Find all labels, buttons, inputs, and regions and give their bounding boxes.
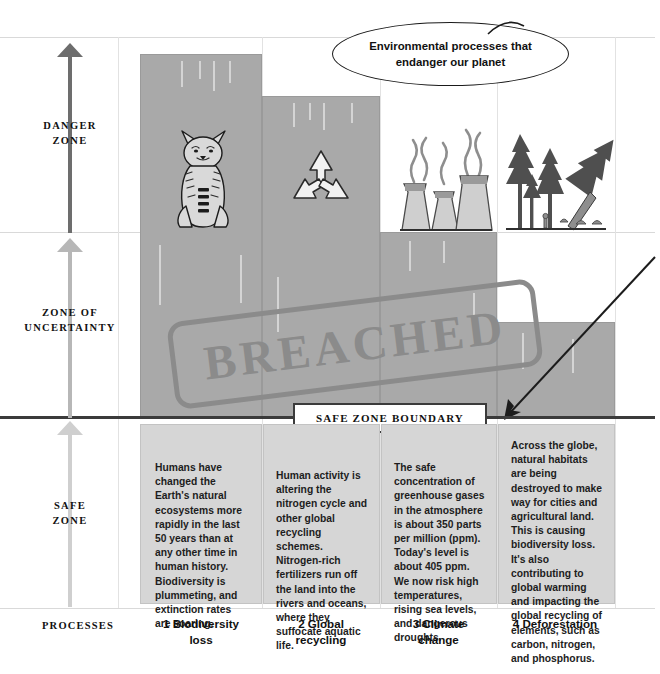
process-label-3-line2: change xyxy=(418,633,459,646)
process-label-1-line1: 1 Biodiversity xyxy=(163,617,239,630)
safe-zone-boundary-label: SAFE ZONE BOUNDARY xyxy=(316,412,464,424)
uncertainty-zone-label-line1: ZONE OF xyxy=(42,307,98,318)
callout-bubble: Environmental processes that endanger ou… xyxy=(332,22,569,86)
process-label-2: 2 Global recycling xyxy=(262,616,380,648)
process-label-4: 4 Deforestation xyxy=(490,616,620,632)
uncertainty-zone-label-line2: UNCERTAINTY xyxy=(24,322,115,333)
process-label-1-line2: loss xyxy=(189,633,212,646)
danger-zone-label: DANGER ZONE xyxy=(10,118,130,148)
callout-text: Environmental processes that endanger ou… xyxy=(369,38,532,70)
trend-arrow xyxy=(495,255,660,423)
tiger-icon xyxy=(168,128,238,233)
safe-zone-label: SAFE ZONE xyxy=(10,498,130,528)
process-label-1: 1 Biodiversity loss xyxy=(140,616,262,648)
safe-zone-label-line1: SAFE xyxy=(54,500,86,511)
cooling-towers-icon xyxy=(400,126,492,232)
card-deforestation: Across the globe, natural habitats are b… xyxy=(498,424,615,604)
uncertainty-zone-label: ZONE OF UNCERTAINTY xyxy=(2,305,138,335)
recycling-icon xyxy=(288,148,354,214)
process-label-2-line1: 2 Global xyxy=(298,617,344,630)
danger-zone-label-line1: DANGER xyxy=(43,120,96,131)
card-body: Across the globe, natural habitats are b… xyxy=(511,439,604,666)
callout-line-1: Environmental processes that xyxy=(369,40,532,52)
card-climate-change: The safe concentration of greenhouse gas… xyxy=(381,424,497,604)
card-body: Humans have changed the Earth's natural … xyxy=(155,461,249,631)
safe-zone-label-line2: ZONE xyxy=(53,515,88,526)
callout-tail xyxy=(486,14,526,36)
card-biodiversity-loss: Humans have changed the Earth's natural … xyxy=(140,424,262,604)
process-label-4-line1: 4 Deforestation xyxy=(513,617,597,630)
processes-axis-label: PROCESSES xyxy=(42,620,114,631)
process-label-3-line1: 3 Climate xyxy=(413,617,465,630)
gridline-top xyxy=(0,37,655,38)
process-label-3: 3 Climate change xyxy=(380,616,497,648)
danger-zone-label-line2: ZONE xyxy=(53,135,88,146)
deforestation-trees-icon xyxy=(506,126,606,232)
card-global-recycling: Human activity is altering the nitrogen … xyxy=(263,424,380,604)
callout-line-2: endanger our planet xyxy=(396,56,506,68)
process-label-2-line2: recycling xyxy=(296,633,347,646)
